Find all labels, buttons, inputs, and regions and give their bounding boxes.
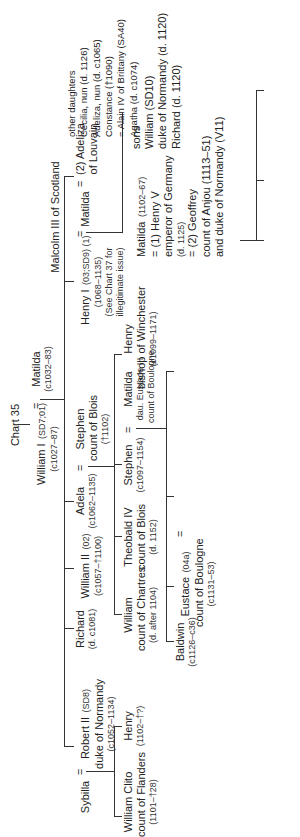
node-matilda-queen: Matilda (c1032–83): [30, 341, 54, 397]
connector: [166, 496, 174, 497]
marriage-sign: =: [30, 403, 42, 409]
descent-line: [136, 428, 166, 429]
connector: [64, 176, 74, 177]
node-adela: Adela (c1062–1135): [74, 473, 98, 529]
connector: [64, 746, 74, 747]
node-william-ii: William II (02) (c1057–†1100): [74, 531, 104, 601]
descent-line: [86, 232, 122, 233]
marriage-sign: =: [174, 531, 186, 537]
connector: [166, 641, 174, 642]
gen4-bar-matilda: [256, 91, 257, 241]
connector: [114, 816, 122, 817]
node-richard: Richard (d. c1081): [74, 601, 98, 657]
marriage-sign: =: [122, 427, 134, 433]
node-henry-i: Henry I (03;SD9) (1) (1068–1135) (See Ch…: [74, 239, 126, 325]
connector: [114, 536, 122, 537]
node-robert-ii: Robert II (SD8) duke of Normandy (c1052–…: [74, 679, 117, 769]
connector: [64, 628, 74, 629]
node-stephen-blois: Stephen count of Blois (†1102): [74, 397, 111, 461]
node-malcolm-iii: Malcolm III of Scotland: [44, 157, 63, 277]
node-william-clito: William Clito count of Flanders (1101–†2…: [122, 767, 159, 837]
list-sons-henry-i: sons William (SD10) duke of Normandy (d.…: [130, 1, 183, 149]
marriage-sign: =: [74, 181, 86, 187]
connector: [256, 180, 264, 181]
connector: [114, 726, 122, 727]
connector: [114, 354, 122, 355]
gen4-bar-stephen: [166, 372, 167, 642]
node-stephen-king: Stephen (c1097–1154): [122, 435, 146, 495]
node-theobald-iv: Theobald IV count of Blois (d. 1152): [122, 503, 159, 571]
connector: [166, 371, 174, 372]
node-henry-winchester: Henry bishop of Winchester (c1099–1171): [122, 289, 159, 389]
node-matilda-scotland: Matilda: [74, 189, 93, 229]
genealogy-chart: Chart 35 William I (SD7;01) (c1027–87) =…: [0, 0, 300, 837]
connector: [256, 90, 264, 91]
gen3-bar-robert: [114, 727, 115, 817]
descent-line: [40, 399, 64, 400]
node-william-i: William I (SD7;01) (c1027–87): [30, 413, 60, 485]
list-other-daughters: other daughters Cecilia, nun (d. 1126) A…: [66, 2, 140, 137]
connector: [64, 501, 74, 502]
node-sybilla: Sybilla: [74, 777, 93, 817]
connector: [114, 464, 122, 465]
node-henry-son-robert: Henry (1102–†?): [122, 703, 146, 749]
connector: [64, 568, 74, 569]
gen3-bar-adela: [114, 355, 115, 615]
node-eustace: Eustace (04a) count of Boulogne (c1131–5…: [174, 541, 217, 627]
chart-title: Chart 35: [4, 385, 23, 465]
marriage-sign: =: [74, 465, 86, 471]
connector: [256, 240, 264, 241]
connector: [166, 586, 174, 587]
descent-line: [240, 240, 256, 241]
node-william-chartres: William count of Chartres (d. after 1104…: [122, 579, 159, 651]
marriage-sign: =: [74, 231, 86, 237]
marriage-sign: =: [74, 769, 86, 775]
descent-line: [88, 466, 114, 467]
descent-line: [86, 771, 114, 772]
connector: [18, 424, 30, 425]
node-empress-matilda: Matilda (1102–67) = (1) Henry V emperor …: [130, 137, 226, 257]
connector: [64, 281, 74, 282]
connector: [114, 614, 122, 615]
gen2-bar: [64, 177, 65, 747]
